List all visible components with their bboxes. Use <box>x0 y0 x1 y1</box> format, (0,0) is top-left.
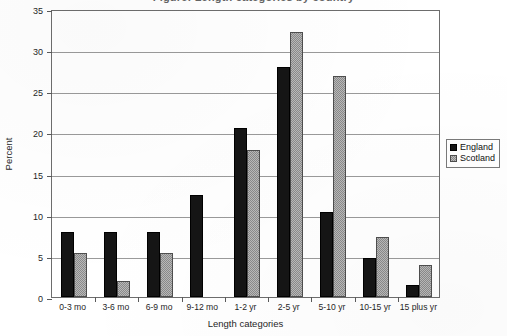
bar-scotland-2-5-yr[interactable] <box>290 32 303 297</box>
bar-scotland-3-6-mo[interactable] <box>117 281 130 297</box>
y-axis-tick-label: 0 <box>38 295 43 304</box>
legend-swatch-scotland <box>450 155 457 162</box>
plot-area: 05101520253035 <box>51 10 440 298</box>
x-axis-label-6-9-mo: 6-9 mo <box>137 302 180 312</box>
x-axis-label-10-15-yr: 10-15 yr <box>354 302 397 312</box>
x-axis-label-3-6-mo: 3-6 mo <box>94 302 137 312</box>
legend-label-scotland: Scotland <box>460 153 495 164</box>
x-axis-label-9-12-mo: 9-12 mo <box>181 302 224 312</box>
gridline <box>52 52 439 53</box>
bar-england-3-6-mo[interactable] <box>104 232 117 297</box>
x-axis-label-5-10-yr: 5-10 yr <box>310 302 353 312</box>
y-axis-tick-label: 35 <box>33 7 43 16</box>
bar-england-6-9-mo[interactable] <box>147 232 160 297</box>
bar-scotland-10-15-yr[interactable] <box>376 237 389 297</box>
y-axis-tick-label: 30 <box>33 48 43 57</box>
y-axis-tick-label: 25 <box>33 89 43 98</box>
x-axis-title: Length categories <box>51 318 440 329</box>
bar-england-10-15-yr[interactable] <box>363 258 376 297</box>
x-axis-label-2-5-yr: 2-5 yr <box>267 302 310 312</box>
y-axis-tick <box>47 93 52 94</box>
x-axis-label-0-3-mo: 0-3 mo <box>51 302 94 312</box>
chart-legend: England Scotland <box>446 139 500 168</box>
bar-england-1-2-yr[interactable] <box>234 128 247 298</box>
legend-item-scotland[interactable]: Scotland <box>450 153 495 164</box>
bar-england-0-3-mo[interactable] <box>61 232 74 297</box>
y-axis-tick <box>47 134 52 135</box>
gridline <box>52 93 439 94</box>
y-axis-tick <box>47 11 52 12</box>
bar-england-5-10-yr[interactable] <box>320 212 333 297</box>
y-axis-tick-label: 5 <box>38 253 43 262</box>
bar-england-15-plus-yr[interactable] <box>406 285 419 297</box>
legend-item-england[interactable]: England <box>450 142 495 153</box>
y-axis-tick-label: 15 <box>33 171 43 180</box>
y-axis-tick <box>47 52 52 53</box>
legend-label-england: England <box>460 142 493 153</box>
y-axis-tick <box>47 258 52 259</box>
bar-scotland-1-2-yr[interactable] <box>247 150 260 297</box>
bar-england-2-5-yr[interactable] <box>277 67 290 297</box>
y-axis-tick-label: 10 <box>33 212 43 221</box>
bar-scotland-0-3-mo[interactable] <box>74 253 87 297</box>
bar-scotland-6-9-mo[interactable] <box>160 253 173 297</box>
y-axis-tick-label: 20 <box>33 130 43 139</box>
bar-scotland-15-plus-yr[interactable] <box>419 265 432 297</box>
y-axis-title: Percent <box>3 138 14 171</box>
bar-england-9-12-mo[interactable] <box>190 195 203 297</box>
y-axis-tick <box>47 217 52 218</box>
x-axis-label-15-plus-yr: 15 plus yr <box>397 302 440 312</box>
x-axis-label-1-2-yr: 1-2 yr <box>224 302 267 312</box>
bar-scotland-5-10-yr[interactable] <box>333 76 346 297</box>
y-axis-tick <box>47 299 52 300</box>
bar-chart: Percent 05101520253035 0-3 mo3-6 mo6-9 m… <box>0 0 507 336</box>
legend-swatch-england <box>450 144 457 151</box>
y-axis-tick <box>47 176 52 177</box>
